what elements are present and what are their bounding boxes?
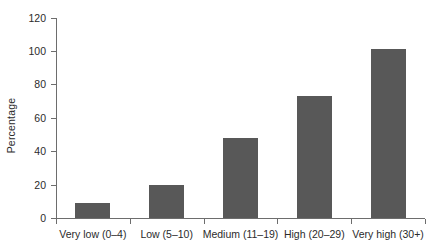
bar — [75, 203, 110, 218]
x-axis-tick — [425, 219, 426, 224]
x-axis-tick — [277, 219, 278, 224]
bar — [297, 96, 332, 218]
x-axis-tick — [56, 219, 57, 224]
y-axis-tick — [51, 51, 56, 52]
x-axis-line — [56, 218, 425, 219]
y-axis-tick — [51, 84, 56, 85]
x-axis-label: Low (5–10) — [140, 228, 193, 241]
x-axis-tick — [204, 219, 205, 224]
bar — [149, 185, 184, 218]
y-axis-tick-label: 80 — [34, 79, 46, 90]
y-axis-title: Percentage — [0, 0, 22, 251]
x-axis-label: Medium (11–19) — [203, 228, 279, 241]
y-axis-line — [56, 18, 57, 218]
y-axis-tick — [51, 18, 56, 19]
x-axis-label: Very low (0–4) — [59, 228, 126, 241]
y-axis-tick — [51, 151, 56, 152]
bar — [371, 49, 406, 218]
y-axis-tick-label: 40 — [34, 146, 46, 157]
y-axis-tick-label: 100 — [28, 46, 46, 57]
x-axis-label: High (20–29) — [284, 228, 345, 241]
y-axis-tick-label: 20 — [34, 179, 46, 190]
x-axis-tick — [351, 219, 352, 224]
y-axis-tick-label: 120 — [28, 12, 46, 23]
bar — [223, 138, 258, 218]
y-axis-tick-label: 60 — [34, 113, 46, 124]
x-axis-label: Very high (30+) — [352, 228, 424, 241]
y-axis-tick — [51, 118, 56, 119]
y-axis-tick-label: 0 — [40, 213, 46, 224]
x-axis-tick — [130, 219, 131, 224]
bar-chart: Percentage 020406080100120 Very low (0–4… — [0, 0, 434, 251]
y-axis-tick — [51, 185, 56, 186]
